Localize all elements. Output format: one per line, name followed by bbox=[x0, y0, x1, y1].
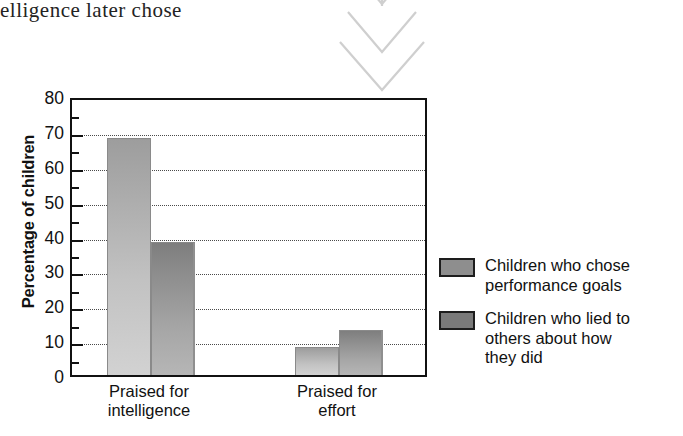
bar-g1-s1 bbox=[339, 330, 383, 375]
y-tick-major-30 bbox=[72, 274, 83, 276]
chart-legend: Children who choseperformance goals Chil… bbox=[439, 256, 683, 382]
y-tick-major-20 bbox=[72, 309, 83, 311]
x-axis-category-1: Praised foreffort bbox=[247, 382, 427, 420]
page-text-snippet: elligence later chose bbox=[0, 0, 182, 23]
y-tick-minor-75 bbox=[72, 117, 79, 119]
y-tick-label-80: 80 bbox=[18, 88, 64, 109]
gridline-70 bbox=[72, 135, 425, 136]
legend-label-0: Children who choseperformance goals bbox=[485, 256, 630, 295]
y-tick-label-40: 40 bbox=[18, 227, 64, 248]
y-tick-minor-65 bbox=[72, 152, 79, 154]
legend-swatch-icon-0 bbox=[439, 258, 475, 277]
y-tick-minor-55 bbox=[72, 187, 79, 189]
bar-g1-s0 bbox=[295, 347, 339, 375]
legend-label-line: performance goals bbox=[485, 276, 630, 296]
y-tick-major-40 bbox=[72, 240, 83, 242]
x-axis-category-line: Praised for bbox=[59, 382, 239, 401]
legend-label-1: Children who lied toothers about howthey… bbox=[485, 309, 630, 368]
y-tick-minor-35 bbox=[72, 257, 79, 259]
legend-item-0: Children who choseperformance goals bbox=[439, 256, 683, 295]
y-tick-label-0: 0 bbox=[18, 367, 64, 388]
y-axis-tick-labels: 01020304050607080 bbox=[14, 98, 64, 377]
legend-label-line: they did bbox=[485, 348, 630, 368]
bar-g0-s1 bbox=[151, 242, 195, 375]
legend-label-line: Children who chose bbox=[485, 256, 630, 276]
y-tick-major-50 bbox=[72, 205, 83, 207]
x-axis-category-0: Praised forintelligence bbox=[59, 382, 239, 420]
bar-g0-s0 bbox=[107, 138, 151, 375]
triple-chevron-down-icon bbox=[322, 0, 442, 96]
y-tick-major-60 bbox=[72, 170, 83, 172]
legend-label-line: Children who lied to bbox=[485, 309, 630, 329]
y-tick-label-50: 50 bbox=[18, 192, 64, 213]
y-tick-label-60: 60 bbox=[18, 157, 64, 178]
legend-label-line: others about how bbox=[485, 329, 630, 349]
legend-swatch-icon-1 bbox=[439, 311, 475, 330]
plot-inner bbox=[72, 100, 425, 375]
bar-chart: Percentage of children 01020304050607080… bbox=[0, 84, 450, 436]
x-axis-category-line: intelligence bbox=[59, 401, 239, 420]
y-tick-minor-15 bbox=[72, 327, 79, 329]
legend-item-1: Children who lied toothers about howthey… bbox=[439, 309, 683, 368]
x-axis-category-line: effort bbox=[247, 401, 427, 420]
y-tick-label-20: 20 bbox=[18, 297, 64, 318]
y-tick-label-30: 30 bbox=[18, 262, 64, 283]
y-tick-major-10 bbox=[72, 344, 83, 346]
y-tick-label-70: 70 bbox=[18, 122, 64, 143]
y-tick-minor-25 bbox=[72, 292, 79, 294]
y-tick-label-10: 10 bbox=[18, 332, 64, 353]
y-tick-minor-5 bbox=[72, 362, 79, 364]
y-tick-major-70 bbox=[72, 135, 83, 137]
y-tick-minor-45 bbox=[72, 222, 79, 224]
x-axis-category-line: Praised for bbox=[247, 382, 427, 401]
plot-area bbox=[70, 98, 427, 377]
